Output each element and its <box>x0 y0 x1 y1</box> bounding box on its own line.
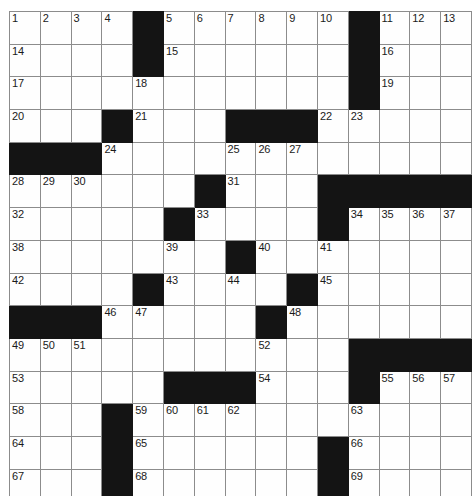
crossword-cell[interactable]: 46 <box>102 306 133 339</box>
crossword-cell[interactable] <box>225 77 256 110</box>
crossword-cell[interactable] <box>256 404 287 437</box>
crossword-cell[interactable] <box>102 44 133 77</box>
crossword-cell[interactable] <box>441 469 472 496</box>
crossword-cell[interactable] <box>410 306 441 339</box>
crossword-cell[interactable] <box>194 273 225 306</box>
crossword-cell[interactable]: 4 <box>102 12 133 45</box>
crossword-cell[interactable] <box>71 208 102 241</box>
crossword-cell[interactable] <box>40 208 71 241</box>
crossword-cell[interactable] <box>441 77 472 110</box>
crossword-cell[interactable] <box>256 77 287 110</box>
crossword-cell[interactable] <box>379 240 410 273</box>
crossword-cell[interactable] <box>256 175 287 208</box>
crossword-cell[interactable]: 18 <box>133 77 164 110</box>
crossword-cell[interactable] <box>102 273 133 306</box>
crossword-cell[interactable] <box>71 371 102 404</box>
crossword-cell[interactable] <box>441 142 472 175</box>
crossword-cell[interactable] <box>40 44 71 77</box>
crossword-cell[interactable] <box>133 142 164 175</box>
crossword-cell[interactable] <box>348 306 379 339</box>
crossword-cell[interactable] <box>441 436 472 469</box>
crossword-cell[interactable]: 27 <box>287 142 318 175</box>
crossword-cell[interactable] <box>40 240 71 273</box>
crossword-cell[interactable] <box>194 44 225 77</box>
crossword-cell[interactable] <box>163 469 194 496</box>
crossword-cell[interactable] <box>71 436 102 469</box>
crossword-cell[interactable] <box>410 44 441 77</box>
crossword-cell[interactable] <box>40 404 71 437</box>
crossword-cell[interactable] <box>163 142 194 175</box>
crossword-cell[interactable] <box>441 306 472 339</box>
crossword-cell[interactable] <box>102 77 133 110</box>
crossword-cell[interactable]: 8 <box>256 12 287 45</box>
crossword-cell[interactable] <box>441 110 472 143</box>
crossword-cell[interactable] <box>287 371 318 404</box>
crossword-cell[interactable]: 49 <box>10 338 41 371</box>
crossword-cell[interactable] <box>317 44 348 77</box>
crossword-cell[interactable] <box>40 77 71 110</box>
crossword-cell[interactable]: 13 <box>441 12 472 45</box>
crossword-cell[interactable] <box>133 338 164 371</box>
crossword-cell[interactable] <box>194 469 225 496</box>
crossword-cell[interactable] <box>102 208 133 241</box>
crossword-cell[interactable]: 65 <box>133 436 164 469</box>
crossword-cell[interactable] <box>410 436 441 469</box>
crossword-cell[interactable] <box>194 240 225 273</box>
crossword-cell[interactable]: 60 <box>163 404 194 437</box>
crossword-cell[interactable] <box>348 142 379 175</box>
crossword-cell[interactable]: 32 <box>10 208 41 241</box>
crossword-cell[interactable] <box>163 175 194 208</box>
crossword-cell[interactable] <box>287 208 318 241</box>
crossword-cell[interactable] <box>379 404 410 437</box>
crossword-cell[interactable] <box>317 338 348 371</box>
crossword-cell[interactable] <box>317 404 348 437</box>
crossword-cell[interactable]: 28 <box>10 175 41 208</box>
crossword-cell[interactable] <box>379 110 410 143</box>
crossword-cell[interactable]: 33 <box>194 208 225 241</box>
crossword-cell[interactable] <box>194 338 225 371</box>
crossword-cell[interactable]: 51 <box>71 338 102 371</box>
crossword-cell[interactable] <box>256 208 287 241</box>
crossword-cell[interactable]: 41 <box>317 240 348 273</box>
crossword-cell[interactable]: 7 <box>225 12 256 45</box>
crossword-cell[interactable]: 64 <box>10 436 41 469</box>
crossword-cell[interactable]: 29 <box>40 175 71 208</box>
crossword-cell[interactable] <box>317 371 348 404</box>
crossword-cell[interactable] <box>410 240 441 273</box>
crossword-cell[interactable]: 39 <box>163 240 194 273</box>
crossword-cell[interactable] <box>163 436 194 469</box>
crossword-cell[interactable] <box>256 44 287 77</box>
crossword-cell[interactable] <box>441 44 472 77</box>
crossword-cell[interactable]: 57 <box>441 371 472 404</box>
crossword-cell[interactable]: 43 <box>163 273 194 306</box>
crossword-cell[interactable]: 17 <box>10 77 41 110</box>
crossword-cell[interactable]: 61 <box>194 404 225 437</box>
crossword-cell[interactable] <box>102 240 133 273</box>
crossword-cell[interactable]: 37 <box>441 208 472 241</box>
crossword-cell[interactable]: 30 <box>71 175 102 208</box>
crossword-cell[interactable] <box>348 240 379 273</box>
crossword-cell[interactable]: 9 <box>287 12 318 45</box>
crossword-cell[interactable] <box>256 436 287 469</box>
crossword-cell[interactable] <box>225 338 256 371</box>
crossword-cell[interactable]: 55 <box>379 371 410 404</box>
crossword-cell[interactable] <box>40 436 71 469</box>
crossword-cell[interactable] <box>71 110 102 143</box>
crossword-cell[interactable] <box>133 371 164 404</box>
crossword-cell[interactable]: 48 <box>287 306 318 339</box>
crossword-cell[interactable]: 66 <box>348 436 379 469</box>
crossword-cell[interactable] <box>287 175 318 208</box>
crossword-cell[interactable]: 34 <box>348 208 379 241</box>
crossword-cell[interactable] <box>225 44 256 77</box>
crossword-cell[interactable]: 42 <box>10 273 41 306</box>
crossword-cell[interactable] <box>71 404 102 437</box>
crossword-cell[interactable] <box>441 240 472 273</box>
crossword-cell[interactable] <box>410 469 441 496</box>
crossword-cell[interactable]: 21 <box>133 110 164 143</box>
crossword-cell[interactable] <box>317 306 348 339</box>
crossword-cell[interactable] <box>163 110 194 143</box>
crossword-cell[interactable] <box>379 469 410 496</box>
crossword-cell[interactable]: 63 <box>348 404 379 437</box>
crossword-cell[interactable] <box>163 77 194 110</box>
crossword-cell[interactable]: 14 <box>10 44 41 77</box>
